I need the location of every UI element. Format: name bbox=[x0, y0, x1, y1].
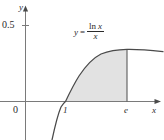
equation-ln-symbol: ln bbox=[89, 21, 96, 31]
x-tick-label-one: 1 bbox=[63, 106, 68, 115]
equation-numerator-variable: x bbox=[98, 21, 102, 31]
y-axis-arrowhead bbox=[23, 6, 28, 12]
x-axis-label: x bbox=[152, 106, 156, 115]
equation-fraction: ln x x bbox=[87, 22, 104, 42]
y-axis-label: y bbox=[19, 3, 23, 12]
origin-label: 0 bbox=[13, 105, 18, 115]
y-tick-label-0point5: 0.5 bbox=[2, 20, 15, 30]
equation-equals-sign: = bbox=[80, 27, 85, 37]
x-tick-label-e: e bbox=[124, 106, 128, 115]
plot-canvas bbox=[0, 0, 164, 140]
equation-annotation: y = ln x x bbox=[74, 22, 104, 42]
equation-numerator: ln x bbox=[87, 22, 104, 31]
figure-container: y x 0.5 0 1 e y = ln x x bbox=[0, 0, 164, 140]
equation-denominator: x bbox=[91, 32, 99, 41]
x-axis-arrowhead bbox=[155, 99, 162, 104]
equation-lhs: y bbox=[74, 27, 78, 37]
